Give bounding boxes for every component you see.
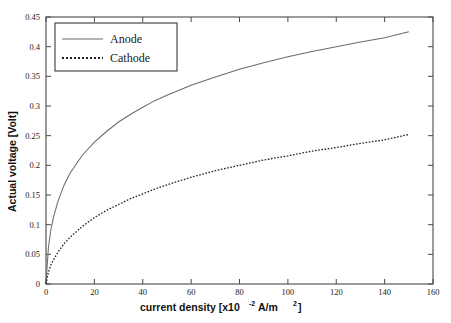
x-tick-label: 120	[330, 287, 343, 297]
y-tick-label: 0	[36, 279, 40, 289]
y-tick-label: 0.25	[25, 131, 40, 141]
x-axis-title-main: current density [x10	[140, 301, 240, 313]
y-tick-label: 0.1	[29, 220, 40, 230]
x-tick-label: 140	[378, 287, 391, 297]
y-tick-label: 0.35	[25, 71, 40, 81]
y-axis-title: Actual voltage [Volt]	[6, 111, 18, 212]
x-axis-title-end: ]	[298, 301, 302, 313]
y-tick-label: 0.2	[29, 160, 40, 170]
chart-svg: 020406080100120140160 00.050.10.150.20.2…	[0, 0, 451, 323]
y-tick-label: 0.05	[25, 249, 40, 259]
series-line-cathode	[46, 134, 409, 284]
x-tick-label: 0	[44, 287, 48, 297]
legend-label-cathode: Cathode	[110, 51, 150, 65]
x-tick-label: 20	[90, 287, 99, 297]
x-axis-title-exponent: -2	[249, 300, 255, 307]
x-tick-label: 160	[427, 287, 440, 297]
y-axis-tick-labels: 00.050.10.150.20.250.30.350.40.45	[25, 12, 41, 289]
x-tick-label: 100	[282, 287, 295, 297]
y-tick-label: 0.3	[29, 101, 40, 111]
x-axis-tick-labels: 020406080100120140160	[44, 287, 440, 297]
chart-figure: 020406080100120140160 00.050.10.150.20.2…	[0, 0, 451, 323]
y-tick-label: 0.4	[29, 42, 40, 52]
y-tick-label: 0.45	[25, 12, 40, 22]
x-tick-label: 60	[187, 287, 196, 297]
x-tick-label: 80	[235, 287, 244, 297]
y-tick-label: 0.15	[25, 190, 40, 200]
x-axis-title-tail: A/m	[258, 301, 278, 313]
legend-label-anode: Anode	[110, 32, 142, 46]
x-axis-title-exponent-2: 2	[293, 300, 297, 307]
x-axis-title: current density [x10 -2 A/m 2 ]	[140, 300, 302, 313]
chart-legend: Anode Cathode	[55, 23, 177, 71]
x-tick-label: 40	[139, 287, 148, 297]
